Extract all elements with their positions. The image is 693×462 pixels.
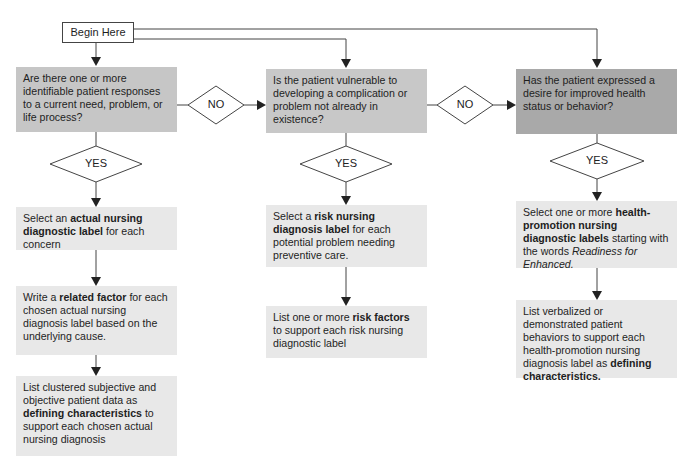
no-decision-1: NO	[188, 98, 244, 110]
step-health-promotion-characteristics: List verbalized or demonstrated patient …	[516, 300, 677, 378]
step-risk-label: Select a risk nursing diagnosis label fo…	[266, 205, 427, 267]
step-text: Select one or more	[523, 206, 615, 218]
step-related-factor: Write a related factor for each chosen a…	[16, 286, 177, 355]
step-text: to support each risk nursing diagnostic …	[273, 324, 403, 349]
step-health-promotion-label: Select one or more health-promotion nurs…	[516, 201, 677, 268]
yes-decision-actual: YES	[50, 157, 142, 169]
begin-here-box: Begin Here	[62, 22, 134, 43]
question-box-health-promotion: Has the patient expressed a desire for i…	[516, 69, 677, 134]
step-text: Select an	[23, 212, 70, 224]
question-box-risk: Is the patient vulnerable to developing …	[266, 69, 427, 133]
question-box-actual: Are there one or more identifiable patie…	[16, 67, 177, 132]
step-actual-label: Select an actual nursing diagnostic labe…	[16, 207, 177, 250]
step-risk-factors: List one or more risk factors to support…	[266, 306, 427, 358]
step-defining-characteristics: List clustered subjective and objective …	[16, 376, 177, 456]
step-text: Write a	[23, 291, 59, 303]
yes-decision-risk: YES	[300, 157, 392, 169]
step-keyword: related factor	[59, 291, 126, 303]
no-decision-2: NO	[437, 98, 493, 110]
step-text: List one or more	[273, 311, 353, 323]
step-text: List clustered subjective and objective …	[23, 381, 156, 406]
step-keyword: defining characteristics	[23, 407, 142, 419]
step-text: Select a	[273, 210, 314, 222]
yes-decision-health-promotion: YES	[550, 154, 644, 166]
step-keyword: risk factors	[353, 311, 410, 323]
